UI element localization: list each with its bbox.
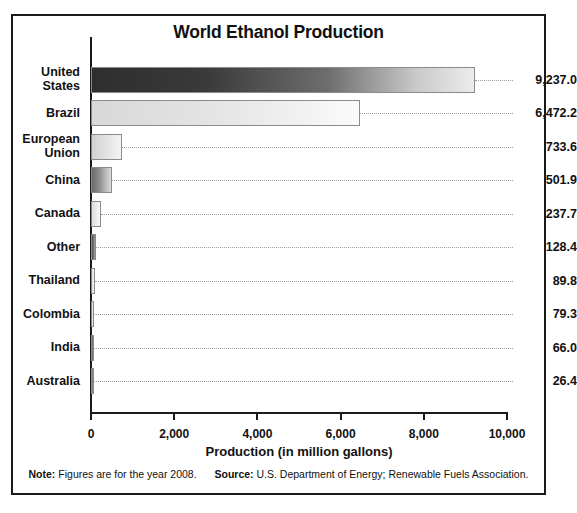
category-label-thailand: Thailand — [29, 264, 80, 298]
bar-row: Australia26.4 — [91, 365, 507, 399]
value-label-india: 66.0 — [517, 341, 577, 355]
leader-line — [95, 281, 513, 283]
value-label-australia: 26.4 — [517, 374, 577, 388]
bar-row: Other128.4 — [91, 231, 507, 265]
bar-fill — [91, 134, 122, 160]
bar-row: Thailand89.8 — [91, 264, 507, 298]
value-label-canada: 237.7 — [517, 207, 577, 221]
x-tick-label-0: 0 — [88, 427, 95, 441]
value-label-china: 501.9 — [517, 173, 577, 187]
x-tick-6000 — [340, 412, 342, 420]
category-label-other: Other — [47, 231, 80, 265]
bar-fill — [91, 201, 101, 227]
bar-china[interactable] — [91, 167, 112, 193]
category-label-line: Union — [45, 147, 80, 161]
bar-row: India66.0 — [91, 331, 507, 365]
bar-india[interactable] — [91, 335, 94, 361]
leader-line — [94, 348, 513, 350]
bar-fill — [91, 100, 360, 126]
bar-fill — [91, 268, 95, 294]
category-label-line: States — [42, 80, 80, 94]
bar-row: China501.9 — [91, 164, 507, 198]
leader-line — [96, 247, 513, 249]
category-label-line: United — [41, 66, 80, 80]
category-label-china: China — [45, 164, 80, 198]
bar-fill — [91, 368, 94, 394]
bar-fill — [91, 67, 475, 93]
category-label-european-union: EuropeanUnion — [22, 130, 80, 164]
bar-brazil[interactable] — [91, 100, 360, 126]
leader-line — [94, 314, 513, 316]
bar-european-union[interactable] — [91, 134, 122, 160]
category-label-united-states: UnitedStates — [41, 63, 80, 97]
bar-fill — [91, 301, 94, 327]
x-axis-title: Production (in million gallons) — [91, 444, 507, 459]
bar-fill — [91, 234, 96, 260]
x-tick-10000 — [506, 412, 508, 420]
bar-row: Colombia79.3 — [91, 298, 507, 332]
bar-other[interactable] — [91, 234, 96, 260]
bar-row: EuropeanUnion733.6 — [91, 130, 507, 164]
leader-line — [475, 80, 513, 82]
source-text: U.S. Department of Energy; Renewable Fue… — [256, 468, 528, 480]
x-tick-label-10000: 10,000 — [489, 427, 526, 441]
bar-colombia[interactable] — [91, 301, 94, 327]
source-label: Source: — [214, 468, 253, 480]
value-label-colombia: 79.3 — [517, 307, 577, 321]
leader-line — [360, 113, 513, 115]
x-tick-2000 — [173, 412, 175, 420]
bar-canada[interactable] — [91, 201, 101, 227]
value-label-united-states: 9,237.0 — [517, 73, 577, 87]
category-label-canada: Canada — [35, 197, 80, 231]
value-label-brazil: 6,472.2 — [517, 106, 577, 120]
bar-row: UnitedStates9,237.0 — [91, 63, 507, 97]
note-label: Note: — [29, 468, 56, 480]
bar-united-states[interactable] — [91, 67, 475, 93]
bar-australia[interactable] — [91, 368, 94, 394]
bar-thailand[interactable] — [91, 268, 95, 294]
x-axis-line — [90, 412, 508, 414]
x-tick-label-8000: 8,000 — [409, 427, 439, 441]
value-label-other: 128.4 — [517, 240, 577, 254]
leader-line — [112, 180, 513, 182]
leader-line — [122, 147, 513, 149]
chart-footnote: Note: Figures are for the year 2008. Sou… — [13, 468, 544, 480]
plot-area: 02,0004,0006,0008,00010,000 UnitedStates… — [91, 37, 507, 412]
x-tick-4000 — [256, 412, 258, 420]
chart-frame: World Ethanol Production 02,0004,0006,00… — [11, 14, 546, 495]
bar-fill — [91, 335, 94, 361]
leader-line — [101, 214, 513, 216]
x-tick-label-6000: 6,000 — [326, 427, 356, 441]
category-label-brazil: Brazil — [46, 97, 80, 131]
x-tick-8000 — [423, 412, 425, 420]
value-label-european-union: 733.6 — [517, 140, 577, 154]
x-tick-label-4000: 4,000 — [242, 427, 272, 441]
value-label-thailand: 89.8 — [517, 274, 577, 288]
category-label-australia: Australia — [27, 365, 81, 399]
bar-row: Brazil6,472.2 — [91, 97, 507, 131]
bar-row: Canada237.7 — [91, 197, 507, 231]
leader-line — [94, 381, 514, 383]
category-label-line: European — [22, 133, 80, 147]
bar-fill — [91, 167, 112, 193]
category-label-colombia: Colombia — [23, 298, 80, 332]
x-tick-0 — [90, 412, 92, 420]
category-label-india: India — [51, 331, 80, 365]
x-tick-label-2000: 2,000 — [159, 427, 189, 441]
note-text: Figures are for the year 2008. — [58, 468, 196, 480]
